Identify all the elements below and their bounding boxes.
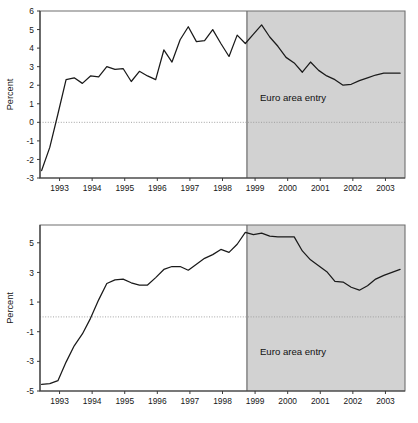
x-tick-label: 1997 [181,396,200,406]
chart-panel-bottom: -5-3-1135 199319941995199619971998199920… [0,211,418,423]
y-tick-labels-bottom: -5-3-1135 [27,238,35,396]
y-tick-label: -3 [27,173,35,183]
y-axis-title-top: Percent [5,78,15,110]
x-tick-label: 1994 [83,396,102,406]
x-tick-label: 1993 [50,183,69,193]
x-tick-label: 1996 [148,396,167,406]
x-tick-label: 1997 [181,183,200,193]
y-tick-label: -1 [27,136,35,146]
euro-area-entry-annotation-bottom: Euro area entry [260,346,326,357]
x-tick-label: 1998 [213,396,232,406]
x-tick-labels-bottom: 1993199419951996199719981999200020012002… [50,396,395,406]
chart-panel-top: -3-2-10123456 19931994199519961997199819… [0,0,418,211]
x-tick-label: 1996 [148,183,167,193]
y-tick-label: -3 [27,356,35,366]
y-tick-label: 6 [29,6,34,16]
y-tick-label: -2 [27,155,35,165]
chart-svg-top: -3-2-10123456 19931994199519961997199819… [0,0,418,211]
y-tick-label: 1 [29,99,34,109]
x-tick-label: 2003 [376,396,395,406]
x-tick-label: 1999 [246,183,265,193]
shaded-region-bottom [247,225,405,391]
x-tick-label: 2001 [311,183,330,193]
y-tick-labels-top: -3-2-10123456 [27,6,35,183]
y-tick-label: 5 [29,25,34,35]
y-axis-title-bottom: Percent [5,292,15,324]
y-tick-label: 5 [29,238,34,248]
y-tick-label: 1 [29,297,34,307]
y-tick-label: -5 [27,386,35,396]
x-tick-labels-top: 1993199419951996199719981999200020012002… [50,183,395,193]
x-tick-label: 2000 [278,183,297,193]
x-tick-label: 2002 [344,396,363,406]
figure-two-panel-line-charts: -3-2-10123456 19931994199519961997199819… [0,0,418,423]
x-tick-label: 1995 [115,183,134,193]
x-tick-label: 2001 [311,396,330,406]
y-tick-label: 0 [29,117,34,127]
y-tick-label: -1 [27,327,35,337]
y-tick-label: 3 [29,268,34,278]
x-tick-label: 2000 [278,396,297,406]
x-tick-label: 1998 [213,183,232,193]
euro-area-entry-annotation-top: Euro area entry [260,92,326,103]
chart-svg-bottom: -5-3-1135 199319941995199619971998199920… [0,211,418,423]
x-tick-label: 2002 [344,183,363,193]
y-tick-label: 2 [29,80,34,90]
y-tick-label: 3 [29,62,34,72]
x-tick-label: 1994 [83,183,102,193]
x-tick-label: 2003 [376,183,395,193]
x-tick-label: 1993 [50,396,69,406]
x-tick-label: 1995 [115,396,134,406]
y-tick-label: 4 [29,43,34,53]
x-tick-label: 1999 [246,396,265,406]
